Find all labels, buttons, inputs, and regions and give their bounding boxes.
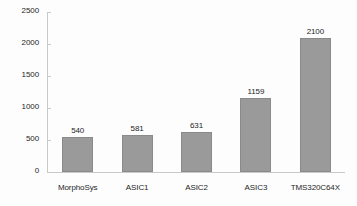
y-axis-tick-label: 2500	[22, 6, 39, 15]
bar-chart: 05001000150020002500 54058163111592100 M…	[0, 0, 357, 206]
bar-value-label: 2100	[307, 27, 324, 36]
bar-item[interactable]: 1159	[226, 12, 285, 172]
bar-rect[interactable]	[181, 132, 212, 172]
x-axis-tick-label: TMS320C64X	[291, 183, 340, 192]
x-axis-tick: ASIC2	[167, 176, 226, 192]
x-axis-tick-label: ASIC2	[185, 183, 208, 192]
bar-item[interactable]: 2100	[286, 12, 345, 172]
x-axis-tick: TMS320C64X	[286, 176, 345, 192]
bar-item[interactable]: 540	[48, 12, 107, 172]
y-axis-tick-label: 1500	[22, 70, 39, 79]
bar-series: 54058163111592100	[48, 12, 345, 172]
x-axis-tick: MorphoSys	[48, 176, 107, 192]
bar-value-label: 631	[190, 121, 203, 130]
y-axis-tick-label: 0	[35, 166, 39, 175]
plot-area: 54058163111592100	[48, 12, 345, 172]
bar-rect[interactable]	[240, 98, 271, 172]
bar-value-label: 581	[131, 124, 144, 133]
bar-rect[interactable]	[122, 135, 153, 172]
bar-value-label: 1159	[248, 87, 265, 96]
bar-rect[interactable]	[300, 38, 331, 172]
bar-item[interactable]: 581	[107, 12, 166, 172]
bar-item[interactable]: 631	[167, 12, 226, 172]
x-axis-tick-label: ASIC3	[245, 183, 268, 192]
x-axis-tick: ASIC1	[107, 176, 166, 192]
bar-rect[interactable]	[62, 137, 93, 172]
x-axis-tick-label: ASIC1	[126, 183, 149, 192]
x-axis-tick-label-group: MorphoSysASIC1ASIC2ASIC3TMS320C64X	[48, 176, 345, 192]
y-axis-tick-label: 1000	[22, 102, 39, 111]
bar-value-label: 540	[71, 126, 84, 135]
x-axis-tick: ASIC3	[226, 176, 285, 192]
y-axis-tick-label: 2000	[22, 38, 39, 47]
x-axis-tick-label: MorphoSys	[58, 183, 98, 192]
x-axis-line	[47, 172, 345, 173]
y-axis-tick-label: 500	[26, 134, 39, 143]
